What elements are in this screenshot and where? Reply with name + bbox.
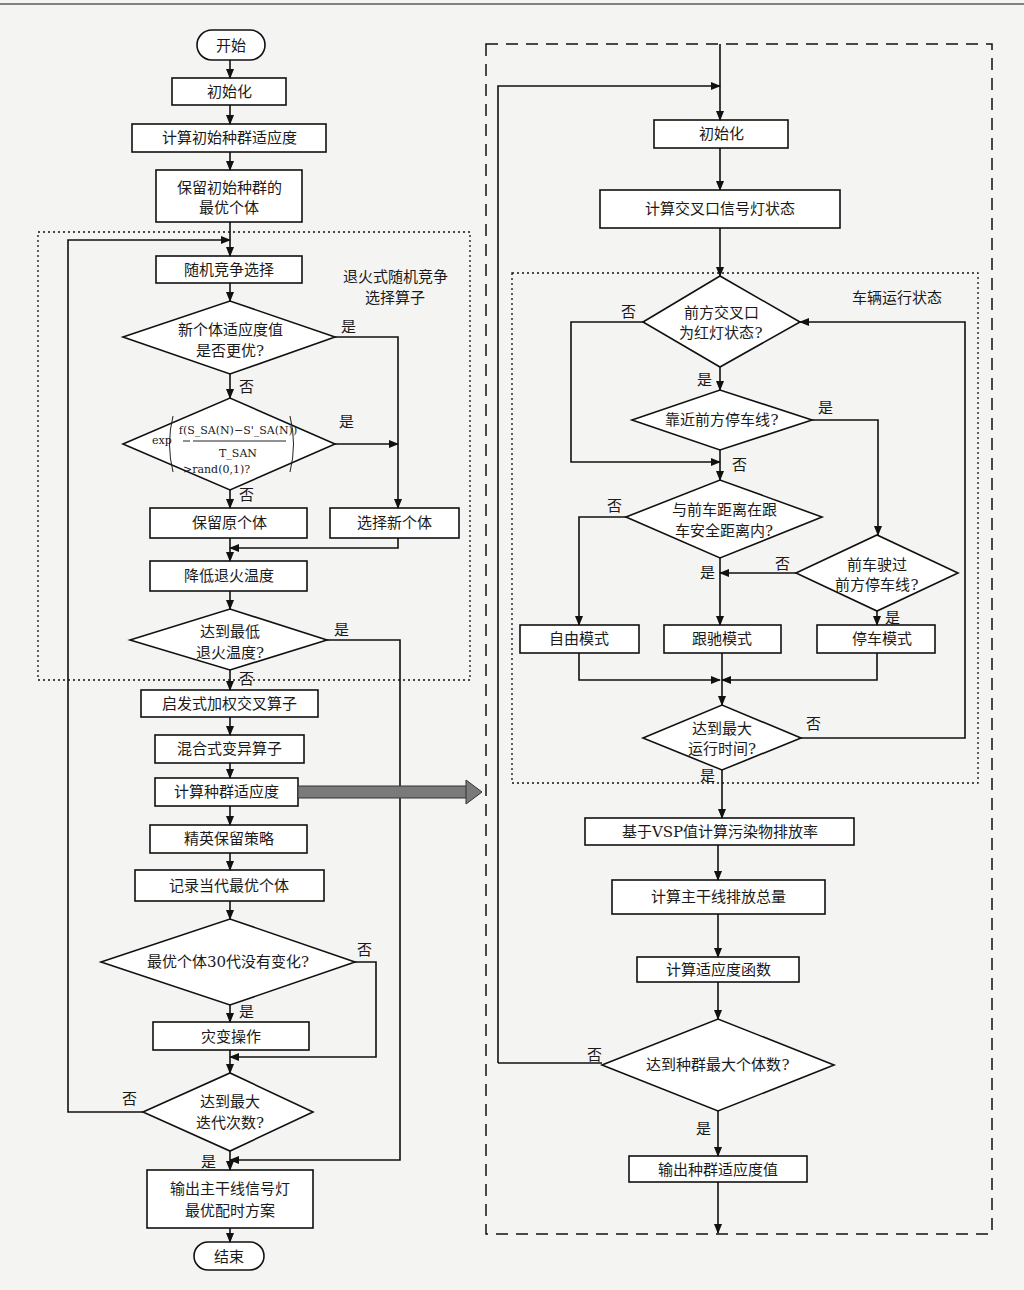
sim-init-text: 初始化 — [699, 125, 744, 143]
fitness-fn-text: 计算适应度函数 — [666, 961, 771, 979]
dist-q-text-2: 车安全距离内? — [675, 522, 773, 540]
passed-q-text-1: 前车驶过 — [847, 556, 907, 574]
vsp-text: 基于VSP值计算污染物排放率 — [622, 823, 818, 841]
label-no: 否 — [621, 303, 636, 321]
label-yes: 是 — [885, 609, 900, 627]
better-q-text-2: 是否更优? — [196, 342, 264, 360]
stop-mode-text: 停车模式 — [852, 630, 912, 648]
random-select-text: 随机竞争选择 — [184, 261, 274, 279]
label-no: 否 — [775, 555, 790, 573]
total-emission-text: 计算主干线排放总量 — [651, 888, 786, 906]
label-yes: 是 — [700, 564, 715, 582]
label-no: 否 — [357, 941, 372, 959]
max-iter-q-text-2: 迭代次数? — [196, 1114, 264, 1132]
keep-original-text: 保留原个体 — [192, 514, 267, 532]
record-best-text: 记录当代最优个体 — [169, 877, 289, 895]
label-yes: 是 — [239, 1003, 254, 1021]
max-iter-q-text-1: 达到最大 — [200, 1093, 260, 1111]
select-new-text: 选择新个体 — [357, 514, 432, 532]
dist-q-text-1: 与前车距离在跟 — [672, 501, 777, 519]
label-yes: 是 — [334, 621, 349, 639]
min-temp-q-text-2: 退火温度? — [196, 644, 264, 662]
calc-init-fitness-text: 计算初始种群适应度 — [162, 129, 297, 147]
formula-numerator: f(S_SA(N)−S'_SA(N)) — [179, 424, 297, 437]
max-time-q-text-2: 运行时间? — [688, 740, 756, 758]
output-fitness-text: 输出种群适应度值 — [658, 1161, 778, 1179]
follow-mode-text: 跟驰模式 — [692, 630, 752, 648]
keep-best-text-2: 最优个体 — [199, 199, 259, 217]
label-yes: 是 — [696, 1120, 711, 1138]
label-no: 否 — [607, 497, 622, 515]
min-temp-q-text-1: 达到最低 — [200, 623, 260, 641]
label-yes: 是 — [697, 371, 712, 389]
max-time-q-text-1: 达到最大 — [692, 720, 752, 738]
vehicle-group-label: 车辆运行状态 — [852, 289, 942, 307]
max-pop-q-text: 达到种群最大个体数? — [646, 1056, 789, 1074]
near-stop-q-text: 靠近前方停车线? — [665, 411, 778, 429]
start-text: 开始 — [216, 37, 246, 55]
link-arrow — [298, 780, 482, 804]
sa-group-label-1: 退火式随机竞争 — [343, 268, 448, 286]
label-no: 否 — [806, 715, 821, 733]
catastrophe-text: 灾变操作 — [201, 1028, 261, 1046]
free-mode-text: 自由模式 — [549, 630, 609, 648]
label-yes: 是 — [201, 1153, 216, 1171]
flowchart-canvas: 开始 初始化 计算初始种群适应度 保留初始种群的 最优个体 随机竞争选择 退火式… — [0, 0, 1024, 1290]
label-no: 否 — [239, 486, 254, 504]
label-yes: 是 — [341, 318, 356, 336]
keep-best-text-1: 保留初始种群的 — [177, 179, 282, 197]
label-yes: 是 — [339, 413, 354, 431]
label-no: 否 — [122, 1090, 137, 1108]
label-yes: 是 — [818, 399, 833, 417]
crossover-text: 启发式加权交叉算子 — [162, 695, 297, 713]
output-text-1: 输出主干线信号灯 — [170, 1180, 290, 1198]
red-q-text-2: 为红灯状态? — [679, 324, 762, 342]
formula-denominator: T_SAN — [219, 447, 257, 460]
no-change-q-text: 最优个体30代没有变化? — [147, 953, 309, 971]
calc-fitness-text: 计算种群适应度 — [174, 783, 279, 801]
label-no: 否 — [239, 670, 254, 688]
mutation-text: 混合式变异算子 — [177, 740, 282, 758]
label-yes: 是 — [700, 767, 715, 785]
sa-group-label-2: 选择算子 — [365, 289, 425, 307]
formula-exp: exp — [152, 434, 172, 447]
init-text: 初始化 — [207, 83, 252, 101]
better-q-text-1: 新个体适应度值 — [178, 321, 283, 339]
label-no: 否 — [732, 456, 747, 474]
passed-q-text-2: 前方停车线? — [835, 576, 918, 594]
calc-signal-text: 计算交叉口信号灯状态 — [645, 200, 795, 218]
red-q-text-1: 前方交叉口 — [684, 304, 759, 322]
elite-text: 精英保留策略 — [184, 830, 274, 848]
lower-temp-text: 降低退火温度 — [184, 567, 274, 585]
formula-compare: >rand(0,1)? — [183, 463, 250, 476]
label-no: 否 — [587, 1046, 602, 1064]
label-no: 否 — [239, 378, 254, 396]
output-text-2: 最优配时方案 — [185, 1202, 275, 1220]
end-text: 结束 — [214, 1248, 244, 1266]
